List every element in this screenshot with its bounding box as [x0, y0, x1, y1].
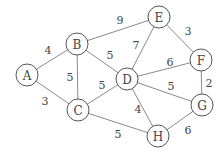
node-label: B: [73, 38, 82, 52]
node-e: E: [148, 6, 170, 28]
node-label: F: [197, 54, 205, 68]
weighted-graph: 43595557654326 ABCDEFGH: [0, 0, 221, 158]
node-g: G: [191, 94, 213, 116]
node-label: A: [22, 69, 32, 83]
node-c: C: [67, 99, 89, 121]
edges-layer: [27, 17, 202, 136]
node-label: C: [73, 104, 82, 118]
edge-weight-b-e: 9: [117, 14, 124, 27]
edge-weight-d-h: 4: [135, 103, 142, 116]
nodes-layer: ABCDEFGH: [16, 6, 213, 147]
edge-weight-e-f: 3: [185, 25, 192, 38]
edge-d-g: [127, 79, 202, 105]
edge-weight-c-h: 5: [115, 128, 122, 141]
edge-weight-b-c: 5: [67, 71, 74, 84]
edge-weight-a-b: 4: [45, 44, 52, 57]
edge-weight-c-d: 5: [99, 79, 106, 92]
node-d: D: [116, 68, 138, 90]
edge-weight-a-c: 3: [42, 95, 49, 108]
edge-weight-f-g: 2: [206, 77, 213, 90]
edge-weight-b-d: 5: [107, 49, 114, 62]
edge-weight-d-f: 6: [167, 56, 174, 69]
node-b: B: [66, 33, 88, 55]
node-label: H: [153, 130, 163, 144]
node-h: H: [147, 125, 169, 147]
node-a: A: [16, 64, 38, 86]
node-label: D: [122, 73, 132, 87]
edge-weight-g-h: 6: [185, 124, 192, 137]
node-label: E: [155, 11, 164, 25]
node-label: G: [197, 99, 207, 113]
edge-weight-d-e: 7: [133, 39, 140, 52]
edge-weight-d-g: 5: [168, 80, 175, 93]
node-f: F: [190, 49, 212, 71]
